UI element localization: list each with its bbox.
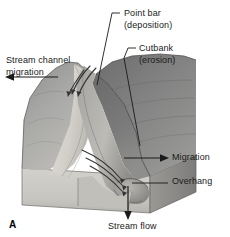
label-migration: Migration (172, 152, 210, 163)
figure-panel: Point bar(deposition) Cutbank(erosion) S… (0, 0, 230, 237)
block-diagram-artwork (0, 0, 230, 237)
label-cutbank: Cutbank(erosion) (139, 43, 175, 66)
label-point-bar-line2: (deposition) (124, 20, 172, 30)
figure-panel-label: A (9, 219, 16, 230)
label-stream-channel-migration-line1: Stream channel (6, 55, 70, 65)
label-stream-channel-migration: Stream channelmigration (6, 55, 70, 78)
label-cutbank-line2: (erosion) (139, 55, 175, 65)
label-point-bar-line1: Point bar (124, 8, 161, 18)
label-point-bar: Point bar(deposition) (124, 8, 172, 31)
label-stream-flow: Stream flow (108, 221, 157, 232)
label-stream-channel-migration-line2: migration (6, 67, 44, 77)
label-cutbank-line1: Cutbank (139, 43, 173, 53)
label-overhang: Overhang (172, 176, 212, 187)
